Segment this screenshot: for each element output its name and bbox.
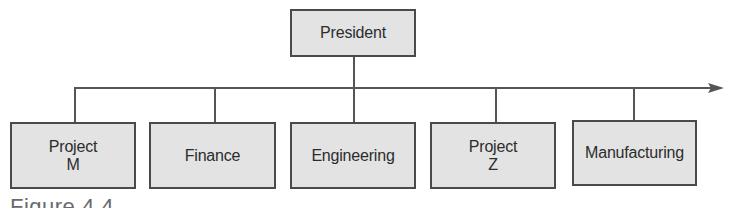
node-project-m: Project M (10, 122, 136, 189)
figure-caption: Figure 4.4 (10, 194, 114, 208)
node-project-z: Project Z (430, 122, 556, 189)
node-manufacturing: Manufacturing (572, 120, 697, 186)
node-engineering: Engineering (290, 122, 416, 189)
org-chart: President Project M Finance Engineering … (0, 0, 732, 208)
node-finance: Finance (149, 122, 276, 189)
node-president: President (290, 9, 416, 57)
